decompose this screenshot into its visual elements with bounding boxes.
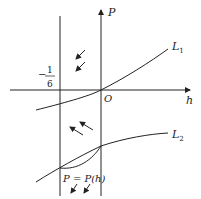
fraction-numerator: 1: [47, 65, 53, 75]
flow-arrow: [70, 127, 83, 135]
flow-arrow: [76, 50, 85, 59]
flow-arrow: [84, 184, 90, 193]
h-axis-label: h: [186, 94, 193, 107]
curve-l1-label: L1: [171, 40, 184, 55]
p-axis-label: P: [107, 6, 116, 19]
curve-l2-label: L2: [171, 128, 184, 143]
curve-p-of-h-label: P = P(h): [62, 173, 106, 184]
phase-diagram: P h O − 1 6 L1 L2 P = P(h): [0, 0, 201, 199]
origin-label: O: [104, 93, 112, 104]
curve-l1: [36, 49, 168, 110]
flow-arrow: [80, 122, 93, 130]
flow-arrow: [76, 62, 85, 71]
flow-arrow: [71, 184, 77, 193]
fraction-denominator: 6: [47, 79, 53, 89]
minus-sign: −: [38, 69, 46, 80]
